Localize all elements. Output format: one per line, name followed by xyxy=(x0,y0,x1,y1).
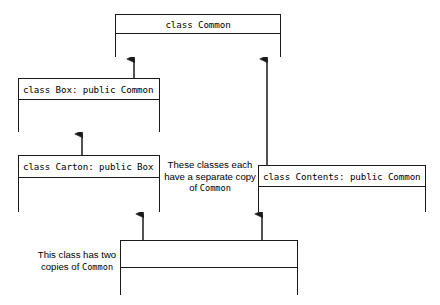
annotation-separate-copy-line1: These classes each xyxy=(162,159,258,171)
class-box-cerealpack[interactable]: class CerealPack: public Carton, public … xyxy=(120,240,298,295)
class-name-common: class Common xyxy=(116,15,280,34)
annotation-separate-copy-line3-prefix: of xyxy=(189,182,200,193)
annotation-separate-copy-line3: of Common xyxy=(162,182,258,195)
annotation-separate-copy-line2: have a separate copy xyxy=(162,171,258,183)
class-box-common[interactable]: class Common xyxy=(115,14,281,57)
annotation-two-copies-line2: copies of Common xyxy=(22,261,132,274)
annotation-two-copies: This class has two copies of Common xyxy=(22,249,132,273)
class-box-box[interactable]: class Box: public Common xyxy=(18,78,160,132)
annotation-separate-copy-line3-mono: Common xyxy=(200,183,231,193)
class-members-box xyxy=(19,100,159,132)
annotation-two-copies-line2-prefix: copies of xyxy=(41,261,82,272)
class-name-cerealpack: class CerealPack: public Carton, public … xyxy=(121,241,297,268)
class-members-common xyxy=(116,34,280,57)
class-box-contents[interactable]: class Contents: public Common xyxy=(258,165,426,212)
class-members-carton xyxy=(19,178,159,212)
class-members-cerealpack xyxy=(121,268,297,295)
annotation-separate-copy: These classes each have a separate copy … xyxy=(162,159,258,195)
class-name-carton: class Carton: public Box xyxy=(19,156,159,178)
annotation-two-copies-line1: This class has two xyxy=(22,249,132,261)
class-members-contents xyxy=(259,187,425,212)
class-name-box: class Box: public Common xyxy=(19,79,159,100)
class-box-carton[interactable]: class Carton: public Box xyxy=(18,155,160,212)
annotation-two-copies-line2-mono: Common xyxy=(82,262,113,272)
class-name-contents: class Contents: public Common xyxy=(259,166,425,187)
